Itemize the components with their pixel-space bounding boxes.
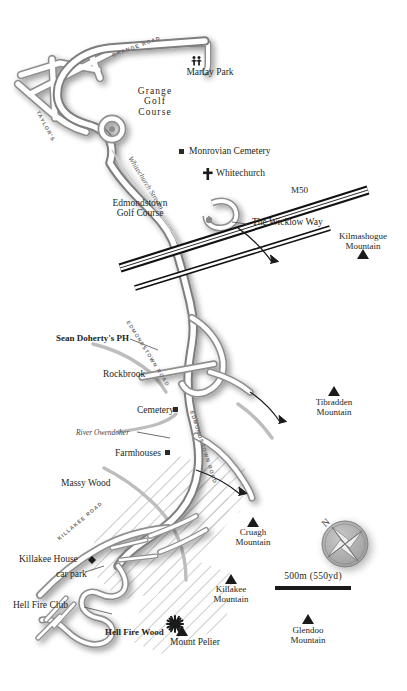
label-monrovian-cemetery: Monrovian Cemetery [189,146,271,156]
label-glendoo-mountain: Glendoo Mountain [291,626,326,645]
label-line: Mountain [316,408,353,418]
label-farmhouses: Farmhouses [115,448,161,458]
label-marlay-park: Marlay Park [186,67,233,77]
label-cemetery: Cemetery [137,405,174,415]
scale-bar-label: 500m (550yd) [284,571,342,581]
label-rockbrook: Rockbrook [103,369,145,379]
label-hell-fire-club: Hell Fire Club [13,600,68,610]
label-hell-fire-wood: Hell Fire Wood [105,628,164,638]
scale-bar-line [275,586,351,590]
label-edmondstown-golf-course: Edmondstown Golf Course [113,198,168,219]
mount-pelier-sunburst-icon [167,616,183,632]
label-car-park: car park [56,569,87,579]
label-line: Golf [138,96,173,106]
label-line: Grange [138,86,173,96]
label-line: Edmondstown [113,198,168,208]
label-mount-pelier: Mount Pelier [170,637,220,647]
pedestrian-icon [192,56,202,66]
label-killakee-mountain: Killakee Mountain [214,585,249,604]
label-river-owendoher: River Owendoher [76,429,129,437]
label-m50: M50 [291,186,308,196]
label-wicklow-way: The Wicklow Way [252,217,323,227]
map-canvas: Marlay Park Grange Golf Course Monrovian… [0,0,407,691]
label-line: Mountain [236,538,271,548]
label-whitechurch: Whitechurch [216,168,265,178]
label-kilmashogue-mountain: Kilmashogue Mountain [339,232,387,251]
label-massy-wood: Massy Wood [61,478,110,488]
compass-rose-graphic [322,521,368,567]
label-line: Mountain [339,242,387,252]
label-line: Mountain [291,636,326,646]
label-line: Course [138,107,173,117]
label-cruagh-mountain: Cruagh Mountain [236,528,271,547]
label-line: Mountain [214,595,249,605]
whitechurch-cross-icon [203,168,213,180]
label-grange-golf-course: Grange Golf Course [138,86,173,117]
label-line: Golf Course [113,208,168,218]
label-sean-dohertys-ph: Sean Doherty's PH [56,334,129,344]
label-tibradden-mountain: Tibradden Mountain [316,398,353,417]
label-killakee-house: Killakee House [19,554,78,564]
